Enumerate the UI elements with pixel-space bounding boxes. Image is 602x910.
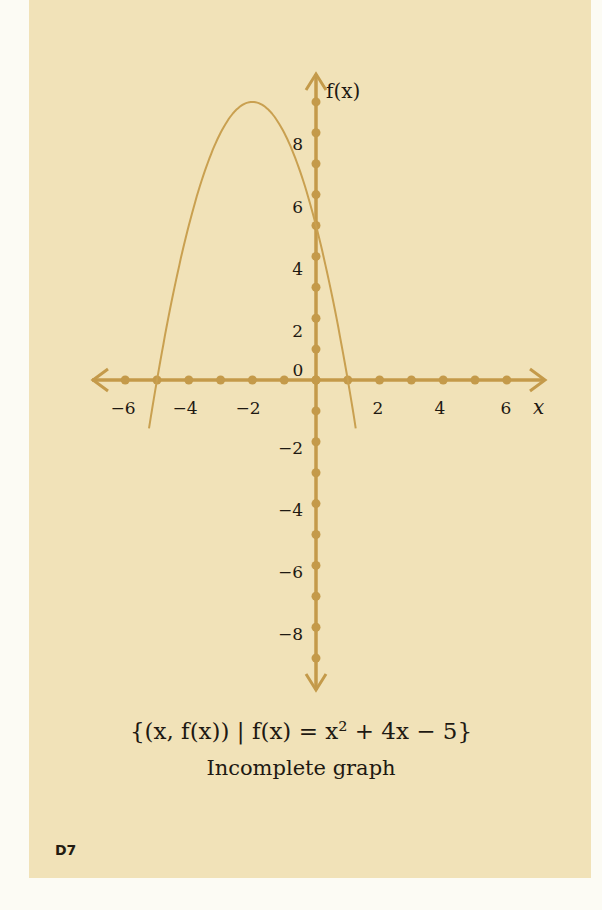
y-tick-dot	[312, 468, 321, 477]
y-tick-dot	[312, 561, 321, 570]
y-tick-dot	[312, 592, 321, 601]
page-number: D7	[55, 842, 76, 858]
y-tick-dot	[312, 159, 321, 168]
y-tick-label: −2	[278, 438, 303, 458]
y-tick-dot	[312, 252, 321, 261]
y-tick-label: −6	[278, 562, 303, 582]
y-tick-dot	[312, 97, 321, 106]
x-tick-label: −6	[110, 398, 135, 418]
origin-label: 0	[293, 360, 304, 380]
y-tick-dot	[312, 283, 321, 292]
x-tick-dot	[407, 376, 416, 385]
y-tick-label: 2	[292, 321, 303, 341]
x-tick-dot	[248, 376, 257, 385]
y-tick-dot	[312, 499, 321, 508]
y-tick-dot	[312, 128, 321, 137]
x-tick-dot	[121, 376, 130, 385]
axes	[92, 74, 545, 690]
x-tick-label: 2	[373, 398, 384, 418]
x-tick-label: −2	[235, 398, 260, 418]
y-tick-label: 4	[292, 259, 303, 279]
y-tick-label: 6	[292, 197, 303, 217]
y-tick-dot	[312, 314, 321, 323]
y-tick-dot	[312, 345, 321, 354]
x-tick-dot	[439, 376, 448, 385]
x-tick-dot	[375, 376, 384, 385]
y-tick-dot	[312, 654, 321, 663]
x-tick-dot	[471, 376, 480, 385]
x-axis-label: x	[533, 395, 544, 419]
x-tick-dot	[280, 376, 289, 385]
y-tick-label: −4	[278, 500, 303, 520]
graph-equation: {(x, f(x)) | f(x) = x² + 4x − 5}	[0, 718, 602, 744]
y-tick-label: −8	[278, 624, 303, 644]
x-tick-label: −4	[172, 398, 197, 418]
x-tick-label: 6	[501, 398, 512, 418]
x-tick-dot	[184, 376, 193, 385]
y-tick-dot	[312, 190, 321, 199]
x-tick-dot	[502, 376, 511, 385]
y-tick-dot	[312, 406, 321, 415]
y-tick-label: 8	[292, 134, 303, 154]
y-axis-label: f(x)	[326, 79, 360, 103]
graph-note: Incomplete graph	[0, 756, 602, 780]
y-tick-dot	[312, 530, 321, 539]
y-tick-dot	[312, 623, 321, 632]
y-tick-dot	[312, 376, 321, 385]
y-tick-dot	[312, 437, 321, 446]
x-tick-dot	[216, 376, 225, 385]
x-tick-label: 4	[435, 398, 446, 418]
tick-labels: −6−4−22468642−2−4−6−80f(x)x	[110, 79, 544, 644]
